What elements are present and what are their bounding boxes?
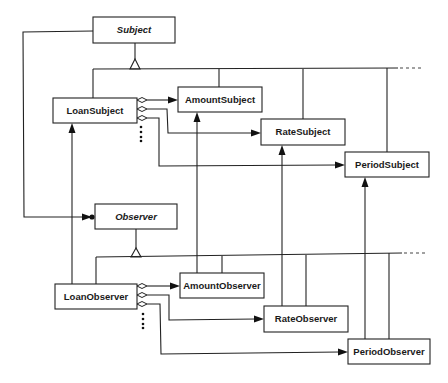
aggregation-diamond-icon	[137, 98, 147, 103]
arrowhead-icon	[362, 177, 369, 187]
arrowhead-icon	[170, 283, 180, 290]
class-name: LoanSubject	[66, 105, 124, 116]
generalization-triangle-icon	[130, 59, 140, 69]
class-name: Observer	[115, 211, 158, 222]
class-name: AmountObserver	[183, 280, 261, 291]
arrowhead-icon	[168, 97, 178, 104]
ellipsis-dot	[140, 131, 143, 134]
aggregation-diamond-icon	[137, 107, 147, 112]
class-period-subject[interactable]: PeriodSubject	[345, 152, 429, 177]
many-dot-icon	[89, 214, 94, 219]
uml-diagram: Subject LoanSubject AmountSubject RateSu…	[0, 0, 448, 383]
class-amount-subject[interactable]: AmountSubject	[178, 87, 262, 112]
class-name: Subject	[117, 24, 152, 35]
class-observer[interactable]: Observer	[95, 204, 177, 229]
subject-observer-association	[23, 31, 95, 221]
arrowhead-icon	[335, 162, 345, 169]
ellipsis-dot	[142, 313, 145, 316]
arrowhead-icon	[194, 112, 201, 122]
class-amount-observer[interactable]: AmountObserver	[180, 273, 264, 298]
ellipsis-dot	[142, 318, 145, 321]
class-subject[interactable]: Subject	[93, 17, 175, 43]
arrowhead-icon	[69, 123, 76, 133]
generalization-triangle-icon	[131, 248, 141, 257]
class-loan-observer[interactable]: LoanObserver	[55, 284, 137, 309]
class-name: AmountSubject	[185, 94, 256, 105]
class-name: PeriodObserver	[353, 346, 425, 357]
aggregation-diamond-icon	[137, 116, 147, 121]
class-rate-subject[interactable]: RateSubject	[261, 119, 345, 145]
ellipsis-dot	[142, 327, 145, 330]
class-period-observer[interactable]: PeriodObserver	[348, 339, 430, 364]
arrowhead-icon	[279, 145, 286, 155]
class-name: RateSubject	[276, 126, 332, 137]
class-loan-subject[interactable]: LoanSubject	[53, 98, 137, 123]
arrowhead-icon	[338, 349, 348, 356]
aggregation-diamond-icon	[137, 284, 147, 289]
arrowhead-icon	[254, 316, 264, 323]
class-name: RateObserver	[275, 313, 338, 324]
class-name: PeriodSubject	[355, 159, 420, 170]
arrowhead-icon	[251, 130, 261, 137]
ellipsis-dot	[142, 323, 145, 326]
ellipsis-dot	[140, 126, 143, 129]
ellipsis-dot	[140, 136, 143, 139]
aggregation-diamond-icon	[137, 293, 147, 298]
aggregation-diamond-icon	[137, 302, 147, 307]
class-name: LoanObserver	[64, 291, 129, 302]
ellipsis-dot	[140, 140, 143, 143]
class-rate-observer[interactable]: RateObserver	[264, 306, 348, 332]
